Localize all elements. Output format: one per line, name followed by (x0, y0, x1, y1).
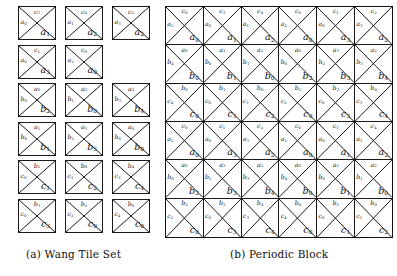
tile-label-south: a0 (303, 147, 312, 157)
tile-label-north: c2 (371, 8, 377, 14)
tile-label-north: b4 (370, 85, 376, 91)
tile-label-south: c2 (265, 109, 274, 119)
periodic-block-cell-r2-c4: a0b0b2 (279, 45, 317, 83)
tile-label-north: a3 (219, 162, 225, 168)
periodic-block-cell-r6-c2: b3c0c3 (204, 199, 242, 237)
tile-label-south: a2 (265, 32, 274, 42)
periodic-block-cell-r4-c5: c3a0a1 (317, 122, 355, 160)
tile-label-west: a2 (167, 136, 173, 142)
tile-label-north: a1 (34, 124, 40, 130)
periodic-block-row: c0a2a0c1a0a3c2a3a2c0a2a0c3a0a1c4a1a2 (166, 122, 392, 160)
periodic-block-cell-r5-c6: a2b1b0 (355, 160, 392, 198)
tile-label-west: a0 (319, 136, 325, 142)
tile-label-west: a2 (281, 21, 287, 27)
tile-label-south: b0 (302, 186, 312, 196)
tile-label-south: b0 (265, 71, 275, 81)
periodic-block-cell-r6-c1: b2c2c0 (166, 199, 204, 237)
tile-label-west: b2 (205, 174, 211, 180)
tile-label-north: b4 (257, 200, 263, 206)
wang-tile-r3-c2: a2b1b0 (65, 83, 103, 117)
tile-label-south: c1 (341, 225, 350, 235)
tile-set-grid: c3a0a1c4a1a2c2a3a2c1a0a3c0a2a0a0b0b2a2b1… (18, 6, 158, 238)
periodic-block-cell-r3-c2: b1c0c1 (204, 84, 242, 122)
tile-slot-r3-c1: a0b0b2 (18, 83, 56, 117)
tile-label-west: b3 (115, 96, 121, 102)
tile-label-west: b2 (68, 134, 74, 140)
wang-tile-set-panel: c3a0a1c4a1a2c2a3a2c1a0a3c0a2a0a0b0b2a2b1… (18, 6, 158, 238)
periodic-block-cell-r5-c1: a0b0b2 (166, 160, 204, 198)
wang-tile-r3-c1: a0b0b2 (18, 83, 56, 117)
tile-label-south: a2 (379, 32, 388, 42)
tile-label-west: c1 (356, 213, 362, 219)
tile-label-north: c1 (219, 123, 225, 129)
tile-label-west: b4 (115, 134, 121, 140)
wang-tile-r5-c2: b0c1c2 (65, 160, 103, 194)
periodic-block-cell-r5-c2: a3b2b3 (204, 160, 242, 198)
tile-slot-r3-c2: a2b1b0 (65, 83, 103, 117)
tile-label-north: c3 (219, 8, 225, 14)
tile-label-west: c1 (68, 173, 74, 179)
periodic-block-panel: c0a2a0c3a0a1c4a1a2c0a2a0c1a0a3c2a3a2a0b4… (165, 6, 393, 238)
tile-label-west: a3 (115, 19, 121, 25)
tile-label-north: a3 (333, 47, 339, 53)
periodic-block-cell-r3-c4: b2c2c0 (279, 84, 317, 122)
tile-label-south: a3 (227, 147, 236, 157)
tile-label-north: c3 (34, 9, 40, 15)
tile-label-north: c0 (181, 8, 187, 14)
wang-tile-r6-c1: b3c0c3 (18, 199, 56, 233)
tile-label-south: b3 (340, 71, 350, 81)
tile-label-south: b1 (227, 71, 237, 81)
tile-label-north: a2 (370, 162, 376, 168)
tile-label-north: a2 (257, 47, 263, 53)
tile-label-north: a0 (34, 86, 40, 92)
tile-label-south: c4 (135, 181, 144, 191)
tile-label-west: b0 (167, 174, 173, 180)
tile-label-west: a0 (21, 19, 27, 25)
tile-label-west: c0 (21, 211, 27, 217)
tile-label-south: c0 (303, 225, 312, 235)
tile-label-south: c2 (379, 225, 388, 235)
wang-tile-r1-c2: c4a1a2 (65, 6, 103, 40)
tile-label-north: a2 (128, 86, 134, 92)
tile-label-south: a0 (189, 32, 198, 42)
periodic-block-row: c0a2a0c3a0a1c4a1a2c0a2a0c1a0a3c2a3a2 (166, 7, 392, 45)
tile-label-west: c2 (68, 211, 74, 217)
tile-label-south: a3 (341, 32, 350, 42)
tile-label-south: a1 (41, 27, 50, 37)
tile-label-west: b0 (205, 59, 211, 65)
tile-label-west: b1 (243, 59, 249, 65)
wang-tile-r6-c2: b2c2c0 (65, 199, 103, 233)
tile-label-north: a0 (295, 47, 301, 53)
periodic-block-cell-r3-c5: b3c0c3 (317, 84, 355, 122)
tile-slot-r5-c2: b0c1c2 (65, 160, 103, 194)
tile-label-north: b0 (81, 163, 87, 169)
tile-slot-r1-c1: c3a0a1 (18, 6, 56, 40)
tile-label-north: b1 (34, 163, 40, 169)
tile-slot-r4-c3: a0b4b0 (112, 122, 150, 156)
tile-slot-r3-c3: a2b3b4 (112, 83, 150, 117)
tile-label-west: b1 (356, 174, 362, 180)
tile-label-south: c0 (88, 219, 97, 229)
tile-label-north: b0 (181, 85, 187, 91)
tile-label-south: b0 (189, 71, 199, 81)
tile-label-west: a1 (243, 21, 249, 27)
tile-label-north: c0 (181, 123, 187, 129)
tile-label-west: c4 (281, 213, 287, 219)
tile-label-west: a0 (205, 136, 211, 142)
tile-label-north: a2 (81, 86, 87, 92)
wang-tile-r1-c1: c3a0a1 (18, 6, 56, 40)
tile-label-west: c4 (167, 98, 173, 104)
periodic-block-cell-r1-c4: c0a2a0 (279, 7, 317, 45)
tile-label-south: c1 (41, 181, 50, 191)
tile-slot-r5-c1: b1c0c1 (18, 160, 56, 194)
tile-label-west: b1 (68, 96, 74, 102)
tile-label-west: c0 (205, 213, 211, 219)
tile-label-south: a2 (379, 147, 388, 157)
periodic-block-cell-r6-c5: b1c0c1 (317, 199, 355, 237)
tile-slot-r5-c3: b4c3c4 (112, 160, 150, 194)
tile-label-west: b4 (281, 174, 287, 180)
tile-label-north: a1 (219, 47, 225, 53)
tile-label-north: b1 (333, 200, 339, 206)
tile-label-west: a0 (205, 21, 211, 27)
periodic-block-cell-r2-c2: a1b0b1 (204, 45, 242, 83)
